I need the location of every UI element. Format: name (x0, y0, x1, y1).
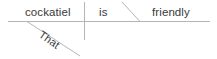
word-verb: is (99, 7, 108, 19)
predicate-complement-divider-line (122, 2, 140, 22)
word-subject: cockatiel (25, 7, 71, 19)
sentence-diagram: cockatiel is friendly That (0, 0, 217, 59)
word-complement: friendly (152, 7, 190, 19)
